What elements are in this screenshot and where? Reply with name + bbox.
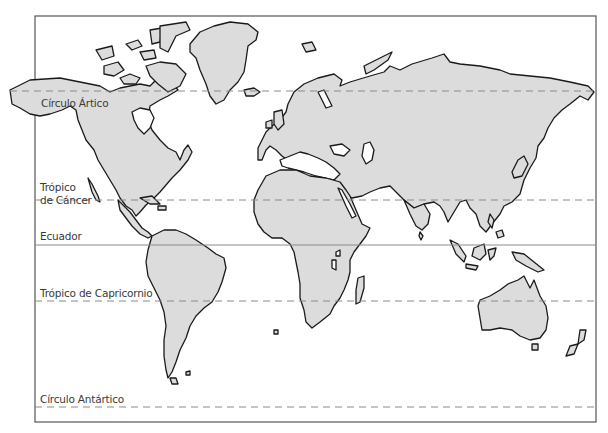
falklands	[186, 371, 190, 375]
antarctic-circle-label: Círculo Antártico	[40, 393, 124, 405]
small-island	[274, 330, 278, 334]
tropic-of-cancer-label-line2: de Cáncer	[40, 194, 92, 206]
tierra-del-fuego	[170, 378, 178, 384]
ireland	[266, 120, 272, 128]
tropic-of-capricorn-label: Trópico de Capricornio	[40, 287, 153, 299]
philippines	[496, 230, 504, 238]
tasmania	[532, 344, 538, 350]
tropic-of-cancer-label-line1: Trópico	[40, 181, 76, 193]
equator-label: Ecuador	[40, 230, 82, 242]
hispaniola	[158, 206, 166, 210]
african-lake	[332, 260, 336, 270]
arctic-circle-label: Círculo Ártico	[41, 97, 108, 109]
world-map	[0, 0, 608, 433]
